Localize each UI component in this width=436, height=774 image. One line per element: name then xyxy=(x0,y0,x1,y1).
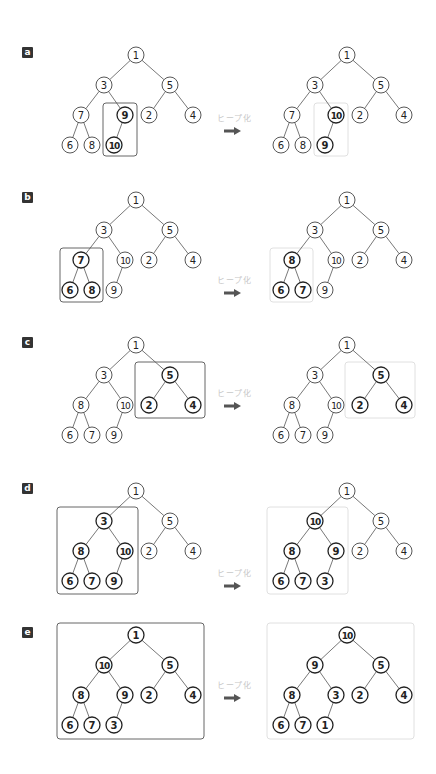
tree-node: 9 xyxy=(317,282,333,298)
tree-node: 5 xyxy=(373,657,389,673)
node-value: 6 xyxy=(278,576,285,587)
node-value: 8 xyxy=(289,690,296,701)
tree-node: 7 xyxy=(73,107,89,123)
tree-edge xyxy=(73,559,78,574)
tree-node: 9 xyxy=(307,657,323,673)
tree-node: 7 xyxy=(295,717,311,733)
tree-edge xyxy=(175,236,188,253)
tree-node: 2 xyxy=(141,107,157,123)
node-value: 2 xyxy=(357,690,364,701)
tree-node: 5 xyxy=(162,657,178,673)
tree-node: 7 xyxy=(84,573,100,589)
node-value: 3 xyxy=(111,720,118,731)
tree-before-c: 13581024679 xyxy=(62,337,201,443)
tree-node: 9 xyxy=(106,573,122,589)
tree-edge xyxy=(73,268,78,283)
node-value: 10 xyxy=(342,631,353,641)
tree-node: 10 xyxy=(117,252,133,268)
node-value: 2 xyxy=(357,400,364,411)
node-value: 6 xyxy=(67,430,73,441)
tree-node: 5 xyxy=(373,367,389,383)
node-value: 7 xyxy=(300,285,307,296)
node-value: 4 xyxy=(190,690,197,701)
node-value: 6 xyxy=(278,285,285,296)
tree-edge xyxy=(84,703,89,718)
tree-edge xyxy=(110,640,130,659)
node-value: 3 xyxy=(101,516,108,527)
tree-edge xyxy=(353,350,375,369)
tree-edge xyxy=(110,350,130,369)
tree-edge xyxy=(297,236,310,253)
tree-edge xyxy=(365,672,377,689)
tree-node: 9 xyxy=(117,107,133,123)
tree-node: 1 xyxy=(128,192,144,208)
tree-edge xyxy=(84,559,89,574)
tree-node: 3 xyxy=(96,77,112,93)
tree-node: 10 xyxy=(328,107,344,123)
tree-node: 8 xyxy=(73,543,89,559)
node-value: 5 xyxy=(378,660,385,671)
tree-node: 10 xyxy=(117,397,133,413)
node-value: 1 xyxy=(133,630,140,641)
node-value: 7 xyxy=(300,430,306,441)
tree-node: 6 xyxy=(273,282,289,298)
tree-node: 8 xyxy=(73,397,89,413)
heapify-label: ヒープ化 xyxy=(217,679,251,690)
node-value: 5 xyxy=(378,80,384,91)
node-value: 9 xyxy=(122,110,129,121)
node-value: 3 xyxy=(322,576,329,587)
tree-edge xyxy=(321,350,341,369)
tree-node: 2 xyxy=(352,687,368,703)
node-value: 10 xyxy=(331,401,342,411)
node-value: 3 xyxy=(312,225,318,236)
tree-node: 3 xyxy=(106,717,122,733)
node-value: 2 xyxy=(146,546,152,557)
tree-edge xyxy=(320,92,332,109)
tree-node: 10 xyxy=(96,657,112,673)
tree-edge xyxy=(109,382,121,399)
tree-edge xyxy=(109,237,121,254)
node-value: 9 xyxy=(312,660,319,671)
tree-edge xyxy=(295,559,300,574)
tree-edge xyxy=(86,236,99,253)
tree-edge xyxy=(284,123,289,138)
node-value: 1 xyxy=(133,195,139,206)
node-value: 10 xyxy=(120,401,131,411)
node-value: 10 xyxy=(331,256,342,266)
node-value: 5 xyxy=(167,225,173,236)
tree-node: 4 xyxy=(396,397,412,413)
tree-node: 8 xyxy=(295,137,311,153)
node-value: 3 xyxy=(333,690,340,701)
node-value: 6 xyxy=(67,576,74,587)
node-value: 10 xyxy=(99,661,110,671)
tree-edge xyxy=(386,381,399,398)
tree-node: 1 xyxy=(339,47,355,63)
node-value: 8 xyxy=(89,140,95,151)
heapify-label: ヒープ化 xyxy=(217,567,251,578)
tree-before-d: 13581024679 xyxy=(62,483,201,589)
tree-edge xyxy=(320,237,332,254)
tree-node: 9 xyxy=(106,282,122,298)
node-value: 9 xyxy=(322,285,328,296)
tree-edge xyxy=(86,381,99,398)
right-arrow-icon xyxy=(224,402,241,410)
tree-node: 2 xyxy=(141,687,157,703)
node-value: 2 xyxy=(146,255,152,266)
node-value: 6 xyxy=(67,720,74,731)
tree-node: 2 xyxy=(352,397,368,413)
tree-edge xyxy=(365,382,377,399)
node-value: 7 xyxy=(89,720,96,731)
tree-node: 2 xyxy=(141,543,157,559)
tree-edge xyxy=(328,703,333,718)
tree-node: 5 xyxy=(373,77,389,93)
node-value: 6 xyxy=(278,720,285,731)
tree-edge xyxy=(297,91,310,108)
tree-edge xyxy=(154,528,166,545)
tree-before-b: 13571024689 xyxy=(62,192,201,298)
tree-after-b: 13581024679 xyxy=(273,192,412,298)
tree-edge xyxy=(295,268,300,283)
node-value: 10 xyxy=(120,256,131,266)
tree-edge xyxy=(117,559,122,574)
tree-node: 3 xyxy=(328,687,344,703)
node-value: 5 xyxy=(167,80,173,91)
